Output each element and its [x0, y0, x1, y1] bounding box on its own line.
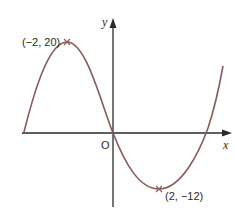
- cubic-graph: (−2, 20) (2, −12) O x y: [0, 0, 237, 218]
- x-axis-label: x: [222, 138, 229, 152]
- y-axis-arrow-icon: [110, 18, 117, 28]
- origin-label: O: [101, 139, 110, 151]
- y-axis-label: y: [101, 15, 108, 29]
- min-point-label: (2, −12): [165, 190, 203, 202]
- max-point-label: (−2, 20): [22, 36, 60, 48]
- cubic-curve: [24, 42, 223, 189]
- x-axis-arrow-icon: [222, 130, 232, 137]
